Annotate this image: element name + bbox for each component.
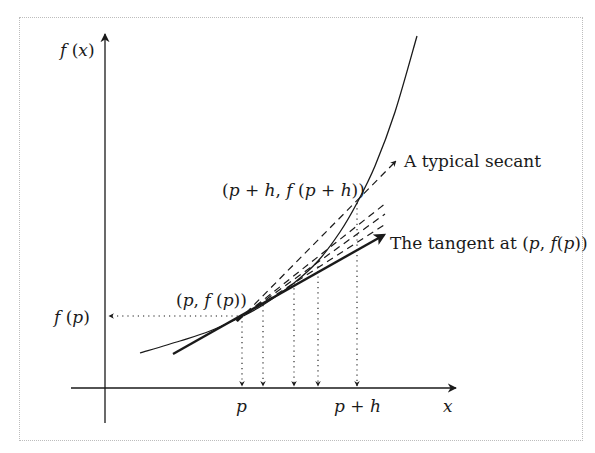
drop-lines [242,203,357,386]
fp-tick-label: f (p) [52,307,90,327]
p-plus-h-tick-label: p + h [334,396,381,416]
point-p-plus-h-label: (p + h, f (p + h)) [222,180,365,200]
y-axis-label: f (x) [58,40,95,60]
secant-annotation: A typical secant [403,151,541,171]
secant-line [237,203,386,321]
tangent-annotation: The tangent at (p, f(p)) [390,233,588,253]
point-p-label: (p, f (p)) [176,290,247,310]
x-axis-label: x [443,396,453,416]
p-tick-label: p [236,396,247,416]
tangent-secant-diagram: f (x) x f (p) p p + h (p, f (p)) (p + h,… [0,0,595,453]
